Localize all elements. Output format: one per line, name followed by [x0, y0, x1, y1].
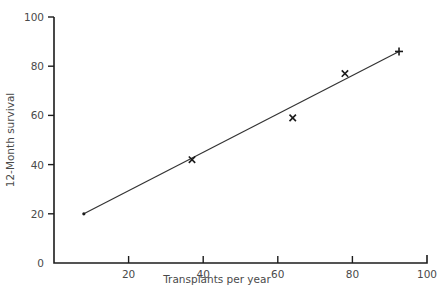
y-tick-label: 0 [37, 257, 44, 269]
x-marker [290, 115, 296, 121]
x-tick-label: 100 [417, 268, 437, 280]
axes [54, 17, 427, 263]
y-tick-label: 20 [31, 208, 44, 220]
x-tick-label: 20 [122, 268, 135, 280]
plus-marker [395, 47, 403, 55]
scatter-chart: 020406080100 20406080100 Transplants per… [0, 0, 447, 306]
fitted-line [82, 51, 399, 215]
y-tick-label: 100 [24, 11, 44, 23]
y-axis-label: 12-Month survival [4, 93, 16, 188]
y-tick-label: 80 [31, 60, 44, 72]
chart-canvas: 020406080100 20406080100 Transplants per… [0, 0, 447, 306]
x-marker [342, 70, 348, 76]
x-axis-label: Transplants per year [162, 273, 271, 285]
y-axis-ticks: 020406080100 [24, 11, 54, 269]
y-tick-label: 60 [31, 109, 44, 121]
y-tick-label: 40 [31, 159, 44, 171]
x-tick-label: 60 [271, 268, 284, 280]
fit-line [84, 51, 399, 213]
line-start-dot [82, 212, 85, 215]
x-tick-label: 80 [346, 268, 359, 280]
